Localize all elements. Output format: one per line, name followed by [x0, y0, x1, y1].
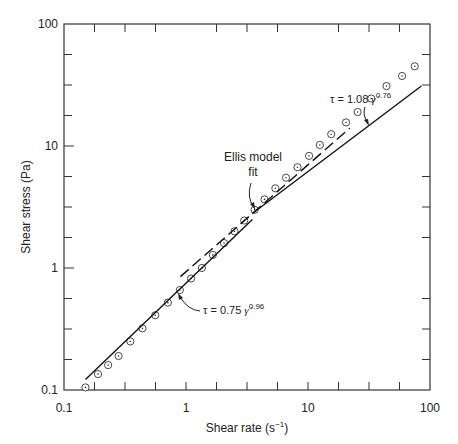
data-point-dot	[285, 177, 287, 179]
x-tick-1: 1	[183, 401, 190, 415]
ellis-label-line1: Ellis model	[224, 150, 282, 164]
high-eq-arrowhead	[364, 119, 369, 126]
fit-lines	[85, 86, 421, 379]
data-point-dot	[154, 314, 156, 316]
data-point-dot	[401, 75, 403, 77]
data-point-dot	[130, 341, 132, 343]
data-point-dot	[234, 230, 236, 232]
x-tick-0.1: 0.1	[56, 401, 73, 415]
chart: 0.1 1 10 100 0.1 1 10 100 Shear rate (s−…	[0, 0, 458, 444]
data-point-dot	[414, 66, 416, 68]
data-point-dot	[223, 242, 225, 244]
power-law-line	[85, 219, 252, 379]
data-points	[82, 63, 418, 391]
data-point-dot	[212, 254, 214, 256]
low-equation: τ = 0.75 γ̇0.96	[203, 302, 265, 316]
ellis-label-line2: fit	[248, 165, 258, 179]
data-point-dot	[357, 111, 359, 113]
x-tick-10: 10	[301, 401, 315, 415]
data-point-dot	[264, 199, 266, 201]
axis-ticks	[64, 24, 430, 390]
data-point-dot	[330, 133, 332, 135]
y-tick-0.1: 0.1	[41, 383, 58, 397]
data-point-dot	[85, 387, 87, 389]
data-point-dot	[167, 302, 169, 304]
data-point-dot	[275, 188, 277, 190]
data-point-dot	[308, 155, 310, 157]
y-axis-label: Shear stress (Pa)	[19, 160, 33, 253]
data-point-dot	[107, 364, 109, 366]
data-point-dot	[319, 144, 321, 146]
data-point-dot	[142, 328, 144, 330]
x-axis-label: Shear rate (s−1)	[206, 420, 289, 435]
low-eq-arrowhead	[178, 293, 183, 300]
data-point-dot	[345, 122, 347, 124]
data-point-dot	[297, 166, 299, 168]
data-point-dot	[386, 85, 388, 87]
y-tick-1: 1	[51, 261, 58, 275]
data-point-dot	[118, 355, 120, 357]
data-point-dot	[97, 373, 99, 375]
low-eq-arrow	[180, 297, 200, 311]
plot-frame	[64, 24, 430, 390]
y-tick-10: 10	[45, 139, 59, 153]
x-tick-100: 100	[420, 401, 440, 415]
y-tick-100: 100	[38, 17, 58, 31]
high-equation: τ = 1.08 γ̇0.76	[330, 91, 392, 105]
